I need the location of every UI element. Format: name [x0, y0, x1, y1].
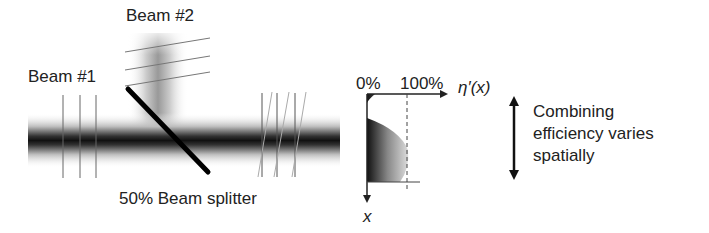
double-arrow-icon — [509, 96, 519, 180]
note-line-1: Combining — [533, 101, 654, 123]
beam-1-label: Beam #1 — [28, 67, 96, 87]
note-line-2: efficiency varies — [533, 123, 654, 145]
beam-2-label: Beam #2 — [126, 6, 194, 26]
efficiency-profile-plot — [363, 90, 448, 203]
axis-zero-label: 0% — [356, 74, 381, 94]
beam-splitter-label: 50% Beam splitter — [119, 189, 257, 209]
efficiency-note: Combining efficiency varies spatially — [533, 101, 654, 167]
efficiency-curve-fill — [367, 94, 408, 182]
beam-1 — [28, 113, 340, 168]
axis-hundred-label: 100% — [400, 74, 443, 94]
eta-axis-label: η′(x) — [458, 78, 490, 98]
x-axis-label: x — [363, 207, 372, 227]
x-axis-arrow-icon — [363, 195, 371, 203]
note-line-3: spatially — [533, 145, 654, 167]
